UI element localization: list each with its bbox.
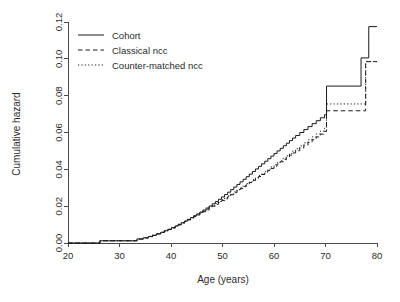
y-axis-tick-label: 0.10 [53, 50, 64, 68]
x-axis-title: Age (years) [197, 274, 249, 285]
legend-label-cohort: Cohort [112, 30, 141, 41]
y-axis-tick-label: 0.04 [53, 160, 64, 179]
chart-background [0, 0, 400, 302]
cumulative-hazard-chart: 20304050607080 0.000.020.040.060.080.100… [0, 0, 400, 302]
y-axis-tick-label: 0.00 [53, 234, 64, 253]
x-axis-tick-label: 70 [320, 250, 331, 261]
x-axis-tick-label: 40 [166, 250, 177, 261]
x-axis-tick-label: 30 [114, 250, 125, 261]
y-axis-tick-label: 0.08 [53, 86, 64, 105]
y-axis-tick-label: 0.12 [53, 13, 64, 32]
y-axis-title: Cumulative hazard [11, 92, 22, 175]
x-axis-tick-label: 80 [372, 250, 383, 261]
legend-label-classical-ncc: Classical ncc [112, 45, 168, 56]
cumulative-hazard-figure: 20304050607080 0.000.020.040.060.080.100… [0, 0, 400, 302]
y-axis-tick-label: 0.02 [53, 197, 64, 216]
x-axis-tick-label: 60 [269, 250, 280, 261]
legend-label-counter-matched-ncc: Counter-matched ncc [112, 60, 203, 71]
y-axis-tick-label: 0.06 [53, 123, 64, 142]
x-axis-tick-label: 50 [217, 250, 228, 261]
